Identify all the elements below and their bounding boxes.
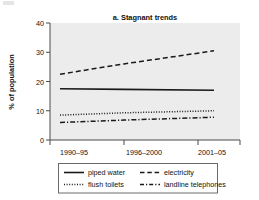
x-tick-label-1996-2000: 1996–2000 (126, 148, 162, 157)
y-axis-label: % of population (7, 54, 16, 110)
plot-area-background (50, 23, 240, 140)
y-tick-label: 0 (40, 136, 44, 145)
x-tick-label-2001-05: 2001–05 (198, 148, 226, 157)
y-tick-label: 10 (36, 107, 44, 116)
y-tick-label: 20 (36, 78, 44, 87)
legend-label-landline-telephones: landline telephones (164, 180, 226, 189)
x-tick-label-1990-95: 1990–95 (60, 148, 88, 157)
y-tick-label: 30 (36, 48, 44, 57)
chart-title: a. Stagnant trends (113, 13, 177, 22)
legend-label-piped-water: piped water (88, 168, 126, 177)
stagnant-trends-line-chart: a. Stagnant trends % of population 40 30… (0, 0, 259, 200)
legend-label-electricity: electricity (164, 168, 194, 177)
legend-label-flush-toilets: flush toilets (88, 180, 124, 189)
y-tick-label: 40 (36, 19, 44, 28)
scan-artifact (3, 1, 14, 5)
chart-figure: a. Stagnant trends % of population 40 30… (0, 0, 259, 200)
